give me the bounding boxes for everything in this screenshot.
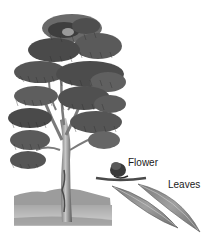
eucalyptus-diagram: Flower Leaves bbox=[0, 0, 214, 239]
tree-illustration bbox=[0, 0, 214, 239]
leaves-label: Leaves bbox=[168, 180, 200, 190]
flower-label: Flower bbox=[128, 158, 158, 168]
leaves-illustration bbox=[112, 184, 200, 232]
